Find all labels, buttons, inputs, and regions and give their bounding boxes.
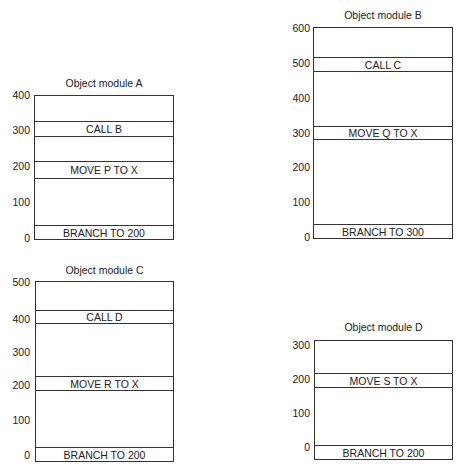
address-tick: 500 [2, 276, 30, 288]
instruction-call: CALL B [34, 121, 174, 137]
address-tick: 200 [2, 379, 30, 391]
instruction-move: MOVE R TO X [35, 376, 174, 391]
address-tick: 500 [282, 57, 310, 69]
address-tick: 100 [282, 407, 310, 419]
address-tick: 400 [2, 313, 30, 325]
instruction-branch: BRANCH TO 300 [313, 224, 453, 239]
address-tick: 200 [2, 160, 30, 172]
module-title: Object module D [314, 321, 453, 333]
instruction-branch: BRANCH TO 200 [314, 445, 453, 460]
address-tick: 100 [2, 196, 30, 208]
address-tick: 0 [2, 449, 30, 461]
address-tick: 600 [282, 22, 310, 34]
instruction-move: MOVE P TO X [34, 161, 174, 179]
module-title: Object module A [34, 77, 174, 89]
module-memory-box: MOVE S TO X BRANCH TO 200 [314, 340, 453, 460]
address-tick: 300 [2, 346, 30, 358]
address-tick: 0 [282, 231, 310, 243]
address-tick: 200 [282, 161, 310, 173]
address-tick: 300 [282, 127, 310, 139]
instruction-call: CALL D [35, 310, 174, 324]
module-title: Object module B [313, 9, 453, 21]
instruction-branch: BRANCH TO 200 [34, 225, 174, 240]
address-tick: 0 [2, 232, 30, 244]
address-tick: 300 [2, 124, 30, 136]
address-tick: 200 [282, 373, 310, 385]
address-tick: 400 [2, 89, 30, 101]
module-memory-box: CALL C MOVE Q TO X BRANCH TO 300 [313, 27, 453, 239]
address-tick: 100 [282, 196, 310, 208]
address-tick: 400 [282, 92, 310, 104]
instruction-move: MOVE Q TO X [313, 126, 453, 140]
module-title: Object module C [35, 264, 174, 276]
instruction-call: CALL C [313, 57, 453, 72]
module-memory-box: CALL D MOVE R TO X BRANCH TO 200 [35, 281, 174, 462]
address-tick: 300 [282, 339, 310, 351]
instruction-move: MOVE S TO X [314, 373, 453, 388]
address-tick: 100 [2, 414, 30, 426]
module-memory-box: CALL B MOVE P TO X BRANCH TO 200 [34, 95, 174, 240]
address-tick: 0 [282, 441, 310, 453]
instruction-branch: BRANCH TO 200 [35, 447, 174, 462]
